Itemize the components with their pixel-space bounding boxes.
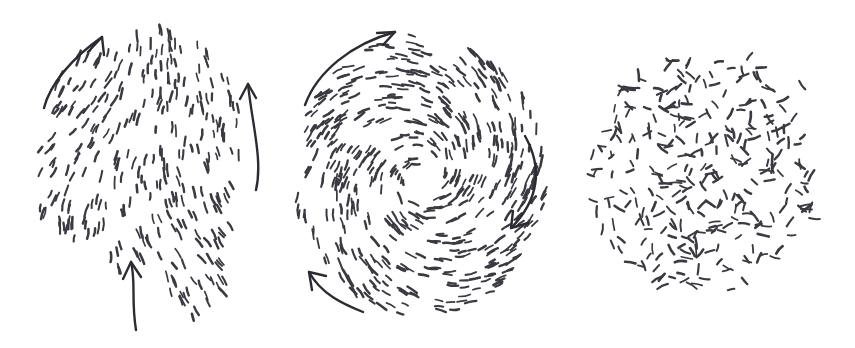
dash-mark	[442, 181, 448, 188]
dash-mark	[414, 145, 423, 146]
dash-mark	[331, 148, 336, 157]
dash-mark	[625, 201, 630, 207]
dash-mark	[723, 265, 733, 270]
dash-mark	[322, 126, 328, 134]
dash-mark	[660, 183, 672, 184]
figure-root	[0, 0, 855, 348]
dash-mark	[143, 70, 144, 76]
dash-mark	[166, 271, 168, 281]
dash-mark	[660, 95, 662, 101]
dash-mark	[741, 67, 743, 76]
dash-mark	[104, 129, 109, 137]
dash-mark	[475, 83, 479, 88]
dash-mark	[192, 314, 194, 321]
dash-mark	[396, 54, 407, 57]
dash-mark	[167, 164, 168, 176]
dash-mark	[618, 237, 625, 243]
dash-mark	[65, 225, 67, 233]
dash-mark	[650, 167, 654, 172]
dash-mark	[486, 291, 494, 293]
dash-mark	[192, 105, 193, 114]
dash-mark	[115, 52, 117, 60]
dash-field-disordered	[587, 53, 819, 290]
dash-mark	[515, 118, 516, 130]
dash-mark	[669, 236, 676, 238]
dash-mark	[698, 212, 704, 216]
dash-mark	[630, 161, 633, 166]
dash-mark	[172, 192, 174, 201]
dash-mark	[184, 78, 185, 86]
dash-mark	[156, 50, 157, 58]
dash-mark	[466, 140, 467, 152]
dash-mark	[739, 223, 749, 224]
dash-mark	[366, 146, 371, 153]
dash-mark	[399, 108, 409, 110]
dash-mark	[408, 61, 418, 63]
dash-mark	[386, 76, 398, 77]
dash-mark	[747, 53, 752, 60]
dash-mark	[615, 115, 617, 122]
dash-mark	[370, 300, 375, 304]
dash-mark	[416, 220, 423, 224]
dash-mark	[398, 193, 402, 204]
dash-mark	[387, 107, 397, 108]
dash-mark	[352, 206, 353, 215]
dash-mark	[601, 224, 603, 234]
dash-mark	[116, 247, 118, 255]
dash-mark	[228, 222, 233, 230]
dash-mark	[508, 94, 510, 100]
dash-mark	[390, 235, 396, 240]
dash-mark	[654, 88, 662, 90]
dash-mark	[432, 151, 437, 156]
dash-mark	[187, 288, 189, 296]
dash-mark	[213, 131, 214, 138]
dash-mark	[100, 171, 103, 182]
dash-mark	[352, 249, 356, 259]
dash-mark	[500, 122, 502, 131]
dash-mark	[706, 172, 717, 174]
dash-mark	[349, 93, 359, 98]
dash-mark	[689, 85, 690, 91]
dash-mark	[317, 238, 319, 248]
dash-mark	[487, 123, 490, 132]
dash-mark	[685, 165, 687, 171]
dash-mark	[768, 132, 770, 141]
dash-mark	[762, 100, 766, 107]
dash-mark	[676, 137, 684, 144]
dash-mark	[479, 77, 485, 86]
dash-mark	[174, 59, 176, 66]
dash-mark	[706, 165, 711, 168]
dash-mark	[698, 264, 699, 274]
dash-mark	[370, 281, 375, 287]
dash-mark	[686, 72, 694, 79]
dash-mark	[386, 276, 391, 281]
dash-mark	[767, 149, 773, 155]
dash-mark	[118, 60, 122, 70]
dash-mark	[791, 114, 796, 122]
dash-mark	[449, 198, 456, 203]
dash-mark	[459, 294, 470, 296]
dash-mark	[742, 278, 747, 284]
dash-mark	[111, 252, 112, 262]
dash-mark	[382, 291, 390, 295]
dash-mark	[541, 204, 544, 210]
dash-mark	[461, 287, 469, 288]
dash-mark	[446, 75, 454, 82]
dash-mark	[515, 166, 519, 177]
dash-mark	[677, 180, 685, 181]
dash-mark	[191, 145, 193, 152]
dash-mark	[613, 219, 615, 230]
dash-mark	[169, 199, 172, 207]
dash-mark	[132, 157, 136, 168]
dash-mark	[669, 277, 675, 279]
dash-mark	[189, 109, 190, 117]
dash-mark	[138, 167, 139, 177]
dash-mark	[728, 68, 735, 69]
dash-mark	[339, 273, 344, 282]
dash-mark	[733, 194, 735, 200]
dash-mark	[472, 67, 478, 76]
dash-mark	[129, 113, 132, 122]
dash-mark	[788, 137, 789, 148]
dash-mark	[757, 253, 761, 262]
dash-mark	[407, 287, 417, 293]
